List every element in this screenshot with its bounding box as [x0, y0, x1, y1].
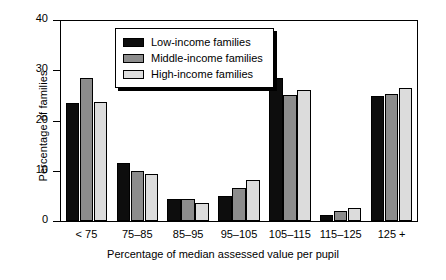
bar — [371, 96, 385, 221]
bar — [181, 199, 195, 221]
y-axis-tick-label: 10 — [36, 163, 48, 175]
bar — [218, 196, 232, 221]
x-axis-tick-label: 95–105 — [214, 228, 265, 240]
x-axis-title: Percentage of median assessed value per … — [0, 248, 446, 260]
legend-label: Middle-income families — [151, 52, 263, 64]
bar — [385, 94, 399, 221]
bar-group — [66, 21, 108, 221]
legend-swatch-low-income — [123, 38, 144, 47]
legend-item: High-income families — [123, 66, 263, 82]
bar — [66, 103, 80, 221]
y-axis-title: Percentage of families — [37, 26, 49, 226]
y-axis-tick-mark — [53, 20, 60, 21]
bar — [269, 78, 283, 221]
bar — [246, 180, 260, 221]
legend-label: High-income families — [151, 68, 253, 80]
bar-group — [269, 21, 311, 221]
legend-item: Low-income families — [123, 34, 263, 50]
x-axis-tick-label: 75–85 — [112, 228, 163, 240]
x-axis-tick-label: < 75 — [61, 228, 112, 240]
y-axis-tick-label: 30 — [36, 62, 48, 74]
bar — [145, 174, 159, 221]
legend-item: Middle-income families — [123, 50, 263, 66]
bar — [297, 90, 311, 221]
y-axis-tick-label: 20 — [36, 113, 48, 125]
bar — [195, 203, 209, 221]
legend-label: Low-income families — [151, 36, 251, 48]
bar — [232, 188, 246, 221]
bar-group — [371, 21, 413, 221]
bar — [117, 163, 131, 221]
bar — [283, 95, 297, 221]
bar — [80, 78, 94, 221]
bar — [320, 215, 334, 221]
y-axis-tick-mark — [53, 171, 60, 172]
x-axis-tick-label: 125 + — [366, 228, 417, 240]
x-axis-tick-label: 105–115 — [264, 228, 315, 240]
x-axis-tick-label: 85–95 — [163, 228, 214, 240]
y-axis-tick-mark — [53, 221, 60, 222]
bar — [94, 102, 108, 221]
bar — [348, 208, 362, 221]
bar — [167, 199, 181, 221]
y-axis-tick-label: 40 — [36, 12, 48, 24]
y-axis-tick-mark — [53, 70, 60, 71]
bar-chart-figure: Percentage of families 010203040 < 7575–… — [0, 0, 446, 280]
legend-swatch-middle-income — [123, 54, 144, 63]
bar — [131, 171, 145, 221]
legend: Low-income families Middle-income famili… — [115, 28, 274, 88]
bar-group — [320, 21, 362, 221]
y-axis-tick-label: 0 — [42, 213, 48, 225]
legend-swatch-high-income — [123, 70, 144, 79]
y-axis-tick-mark — [53, 121, 60, 122]
bar — [399, 88, 413, 221]
x-axis-tick-label: 115–125 — [315, 228, 366, 240]
bar — [334, 211, 348, 221]
